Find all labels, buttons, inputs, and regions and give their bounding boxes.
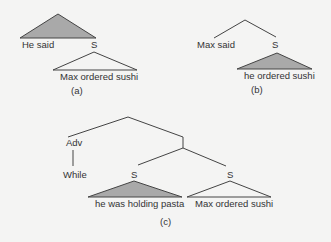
tree-c-open-triangle [187,181,271,197]
tree-b-branches [214,20,276,38]
tree-c-adv-label: Adv [66,137,83,148]
tree-b-s-label: S [272,39,278,50]
tree-c-shaded-triangle [88,181,182,197]
tree-c-caption: (c) [160,216,171,227]
tree-b: Max said S he ordered sushi (b) [197,20,315,95]
tree-c-left-embedded-label: he was holding pasta [95,198,185,209]
tree-a: He said S Max ordered sushi (a) [20,14,138,96]
tree-a-he-said-label: He said [22,39,54,50]
tree-c-while-label: While [63,169,87,180]
tree-b-caption: (b) [251,84,263,95]
tree-a-embedded-label: Max ordered sushi [60,71,138,82]
tree-c-s-right-label: S [227,169,233,180]
tree-c-right-embedded-label: Max ordered sushi [195,198,273,209]
tree-a-s-label: S [91,39,97,50]
tree-c-root-branches [68,117,183,137]
tree-a-open-triangle [53,52,137,70]
tree-a-caption: (a) [71,85,83,96]
tree-c-s-left-label: S [131,169,137,180]
tree-b-max-said-label: Max said [197,39,235,50]
tree-c-s-branches [138,148,226,166]
tree-b-embedded-label: he ordered sushi [244,70,315,81]
tree-c: Adv While S S he was holding pasta Max o… [63,117,273,227]
tree-b-shaded-triangle [237,53,312,69]
tree-a-shaded-triangle [20,14,96,38]
syntax-tree-diagrams: He said S Max ordered sushi (a) Max said… [0,0,331,242]
